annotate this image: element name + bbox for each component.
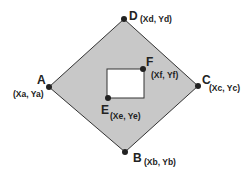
coords-a: (Xa, Ya) [13,89,44,99]
point-b [122,149,128,155]
point-a [46,84,52,90]
label-d: D [129,9,138,23]
inner-rectangle [107,69,144,98]
point-e [105,95,111,101]
label-a: A [37,73,46,87]
coords-d: (Xd, Yd) [140,14,172,24]
coords-f: (Xf, Yf) [151,70,178,80]
coords-c: (Xc, Yc) [209,83,240,93]
point-c [195,83,201,89]
label-f: F [146,55,153,69]
label-e: E [101,103,109,117]
point-d [121,16,127,22]
coords-b: (Xb, Yb) [144,157,176,167]
coords-e: (Xe, Ye) [110,111,141,121]
label-b: B [133,151,142,165]
